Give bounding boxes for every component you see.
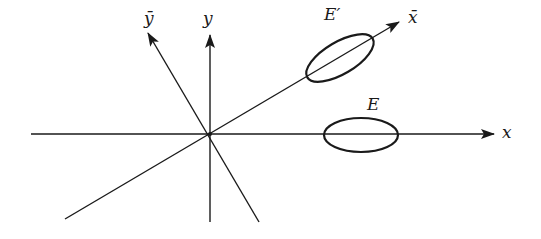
label-e-prime: E′	[324, 6, 340, 23]
label-x-bar: x̄	[408, 9, 418, 26]
ellipse-e-prime	[299, 25, 381, 91]
diagram-canvas: ȳ y E′ x̄ E x	[0, 0, 541, 239]
ellipse-e	[324, 118, 398, 152]
label-x: x	[502, 124, 512, 141]
label-y-bar: ȳ	[144, 10, 154, 27]
axes-diagram	[0, 0, 541, 239]
y-bar-axis	[148, 33, 259, 222]
label-y: y	[203, 10, 213, 27]
x-bar-axis	[65, 22, 399, 219]
label-e: E	[367, 96, 379, 113]
origin-point	[208, 132, 212, 136]
